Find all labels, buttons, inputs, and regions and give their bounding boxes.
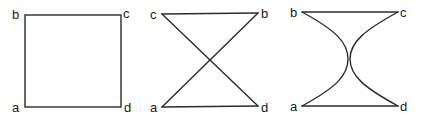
- label-c: c: [123, 6, 130, 21]
- figure-crossed: c b a d: [150, 6, 268, 115]
- label-b: b: [290, 5, 297, 20]
- label-d: d: [261, 100, 268, 115]
- label-a: a: [12, 100, 20, 115]
- figure-square: b c a d: [12, 6, 131, 115]
- label-d: d: [400, 99, 407, 114]
- curve-b-a: [302, 12, 348, 106]
- figure-curved: b c a d: [290, 5, 407, 114]
- curve-c-d: [350, 12, 398, 106]
- edge-a-d: [162, 106, 258, 107]
- label-b: b: [261, 6, 268, 21]
- label-d: d: [124, 100, 131, 115]
- label-a: a: [290, 99, 298, 114]
- square-outline: [25, 15, 121, 107]
- label-b: b: [12, 7, 19, 22]
- diagram-canvas: b c a d c b a d b c a d: [0, 0, 424, 115]
- edge-c-b: [162, 13, 258, 14]
- label-a: a: [150, 100, 158, 115]
- label-c: c: [150, 7, 157, 22]
- label-c: c: [400, 5, 407, 20]
